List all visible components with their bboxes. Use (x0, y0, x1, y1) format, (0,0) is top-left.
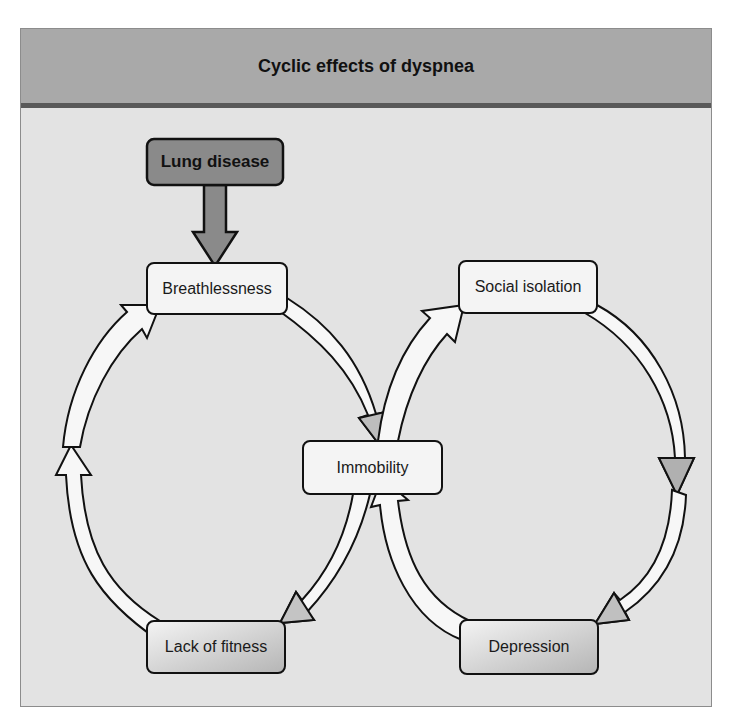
arrow-lack-of-fitness-up-icon (56, 445, 160, 640)
cycle-diagram (0, 0, 730, 715)
arrow-to-breathlessness-icon (63, 305, 160, 447)
immobility-label: Immobility (303, 441, 442, 494)
arrow-breathlessness-to-immobility-icon (278, 298, 385, 443)
lung-disease-label: Lung disease (147, 139, 283, 185)
lack-of-fitness-label: Lack of fitness (147, 621, 285, 673)
arrow-social-isolation-down-icon (585, 305, 694, 495)
social-isolation-label: Social isolation (459, 261, 597, 313)
breathlessness-label: Breathlessness (147, 263, 287, 314)
cause-arrow-icon (193, 185, 237, 266)
arrow-immobility-to-social-isolation-icon (378, 305, 464, 441)
arrow-to-depression-icon (595, 490, 686, 624)
depression-label: Depression (460, 620, 598, 674)
arrow-depression-to-immobility-icon (371, 478, 470, 640)
arrow-immobility-to-lack-of-fitness-icon (280, 494, 370, 623)
